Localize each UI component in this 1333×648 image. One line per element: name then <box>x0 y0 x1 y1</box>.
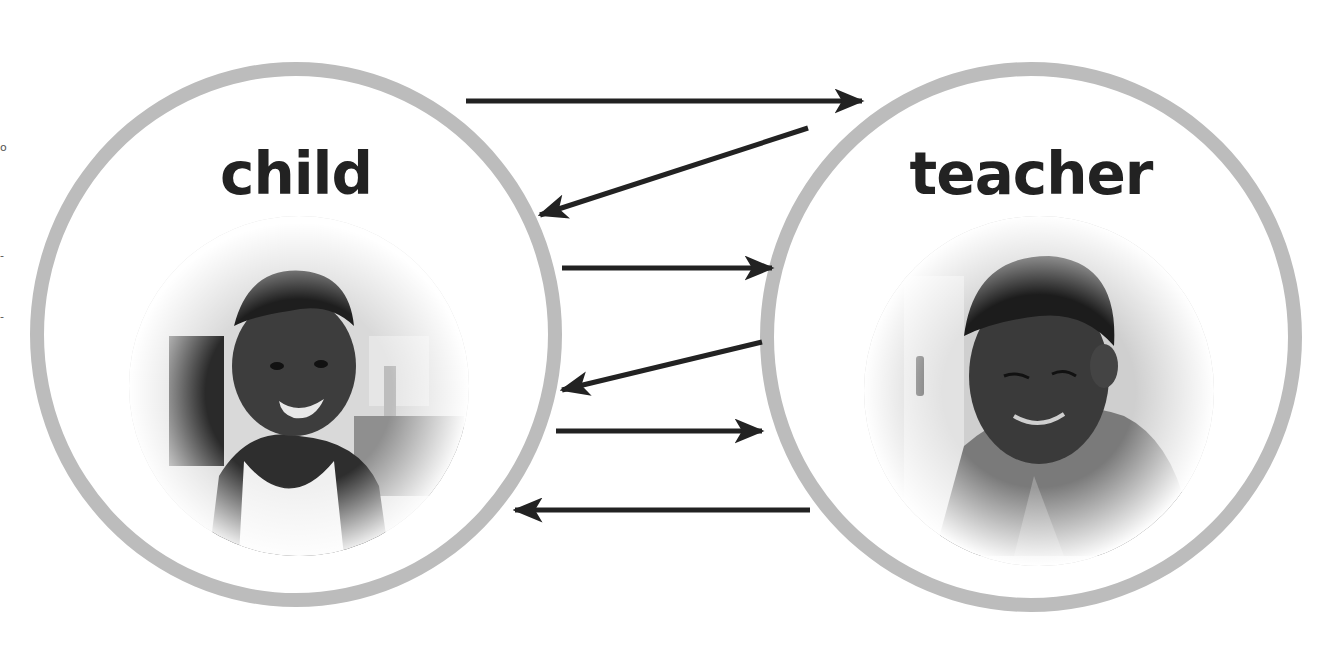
arrow-layer <box>0 0 1333 648</box>
diagram-canvas: o - - child <box>0 0 1333 648</box>
arrow-teacher-to-child <box>540 128 808 215</box>
arrow-teacher-to-child <box>562 342 762 390</box>
